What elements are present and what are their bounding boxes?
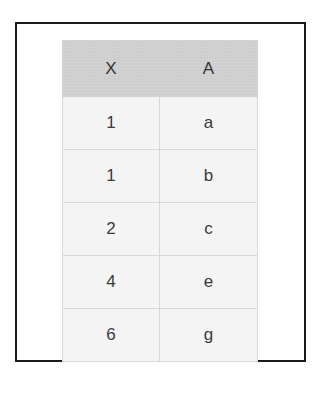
table-row: 1 b (63, 150, 258, 203)
column-header-a: A (160, 41, 258, 97)
header-row: X A (63, 41, 258, 97)
cell-a: c (160, 203, 258, 256)
cell-x: 1 (63, 150, 160, 203)
cell-a: e (160, 256, 258, 309)
cell-a: a (160, 97, 258, 150)
data-table: X A 1 a 1 b 2 c 4 e 6 g (62, 40, 258, 362)
table-row: 6 g (63, 309, 258, 362)
cell-x: 6 (63, 309, 160, 362)
cell-a: g (160, 309, 258, 362)
table-row: 4 e (63, 256, 258, 309)
cell-x: 4 (63, 256, 160, 309)
cell-a: b (160, 150, 258, 203)
table-row: 1 a (63, 97, 258, 150)
column-header-x: X (63, 41, 160, 97)
cell-x: 1 (63, 97, 160, 150)
cell-x: 2 (63, 203, 160, 256)
table-row: 2 c (63, 203, 258, 256)
